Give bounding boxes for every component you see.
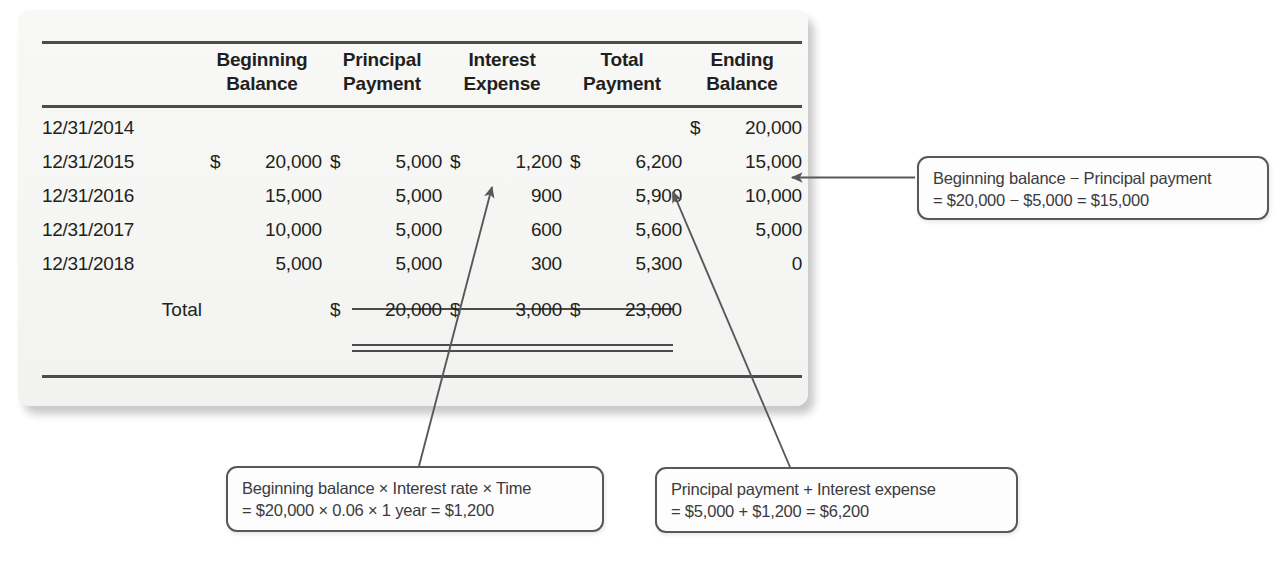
cell-total-payment: $6,200	[562, 145, 682, 179]
value: 10,000	[265, 219, 322, 240]
value: 23,000	[625, 299, 682, 320]
cell-total-payment	[562, 111, 682, 145]
cell-beginning-balance: 10,000	[202, 213, 322, 247]
header-line-1: Ending	[710, 49, 773, 70]
column-header-total-payment: Total Payment	[562, 48, 682, 102]
cell-principal-payment	[322, 111, 442, 145]
callout-total-payment: Principal payment + Interest expense = $…	[655, 467, 1018, 533]
cell-principal-payment: 5,000	[322, 247, 442, 281]
header-line-1: Beginning	[216, 49, 307, 70]
cell-beginning-balance: 5,000	[202, 247, 322, 281]
cell-ending-balance: 0	[682, 247, 802, 281]
cell-principal-payment: 5,000	[322, 179, 442, 213]
value: 300	[531, 253, 562, 274]
value: 900	[531, 185, 562, 206]
cell-date: 12/31/2016	[42, 179, 202, 213]
value: 1,200	[515, 151, 562, 172]
cell-principal-payment: 5,000	[322, 213, 442, 247]
cell-beginning-balance: 15,000	[202, 179, 322, 213]
currency-symbol: $	[562, 293, 580, 327]
cell-ending-balance: 10,000	[682, 179, 802, 213]
currency-symbol: $	[682, 111, 700, 145]
callout-line-2: = $20,000 × 0.06 × 1 year = $1,200	[242, 499, 588, 521]
value: 20,000	[385, 299, 442, 320]
cell-interest-expense: 300	[442, 247, 562, 281]
value: 5,900	[635, 185, 682, 206]
value: 6,200	[635, 151, 682, 172]
cell-beginning-balance: $20,000	[202, 145, 322, 179]
total-cell-total-payment: $23,000	[562, 281, 682, 327]
value: 5,000	[395, 185, 442, 206]
callout-line-1: Principal payment + Interest expense	[671, 478, 1002, 500]
amortization-table: Beginning Balance Principal Payment Inte…	[42, 48, 802, 327]
spacer-cell	[442, 102, 562, 111]
cell-total-payment: 5,300	[562, 247, 682, 281]
header-line-2: Payment	[343, 73, 421, 94]
spacer-cell	[682, 102, 802, 111]
value: 20,000	[745, 117, 802, 138]
cell-date: 12/31/2014	[42, 111, 202, 145]
cell-beginning-balance	[202, 111, 322, 145]
value: 0	[792, 253, 802, 274]
currency-symbol: $	[562, 145, 580, 179]
value: 3,000	[515, 299, 562, 320]
header-line-2: Balance	[226, 73, 297, 94]
value: 5,000	[755, 219, 802, 240]
cell-ending-balance: 5,000	[682, 213, 802, 247]
table-header: Beginning Balance Principal Payment Inte…	[42, 48, 802, 102]
table-body: 12/31/2014 $20,000 12/31/2015 $20,000 $5…	[42, 102, 802, 327]
total-cell-principal-payment: $20,000	[322, 281, 442, 327]
header-line-2: Expense	[464, 73, 541, 94]
total-cell-ending-balance	[682, 281, 802, 327]
cell-date: 12/31/2017	[42, 213, 202, 247]
spacer-cell	[322, 102, 442, 111]
header-line-1: Total	[601, 49, 644, 70]
cell-interest-expense: 900	[442, 179, 562, 213]
header-line-2: Balance	[706, 73, 777, 94]
card-surface: Beginning Balance Principal Payment Inte…	[18, 10, 808, 406]
table-row: 12/31/2018 5,000 5,000 300 5,300 0	[42, 247, 802, 281]
callout-line-1: Beginning balance − Principal payment	[933, 167, 1253, 189]
callout-interest-expense: Beginning balance × Interest rate × Time…	[226, 466, 604, 532]
header-line-1: Interest	[468, 49, 535, 70]
cell-total-payment: 5,600	[562, 213, 682, 247]
table-row: 12/31/2015 $20,000 $5,000 $1,200 $6,200 …	[42, 145, 802, 179]
value: 600	[531, 219, 562, 240]
header-line-1: Principal	[343, 49, 421, 70]
value: 5,000	[395, 151, 442, 172]
table-bottom-rule	[42, 375, 802, 378]
callout-ending-balance: Beginning balance − Principal payment = …	[917, 156, 1269, 220]
value: 15,000	[745, 151, 802, 172]
table-row: 12/31/2016 15,000 5,000 900 5,900 10,000	[42, 179, 802, 213]
column-header-date	[42, 48, 202, 102]
value: 10,000	[745, 185, 802, 206]
table-total-row: Total $20,000 $3,000 $23,000	[42, 281, 802, 327]
cell-interest-expense: 600	[442, 213, 562, 247]
total-label: Total	[42, 281, 202, 327]
cell-ending-balance: $20,000	[682, 111, 802, 145]
value: 5,600	[635, 219, 682, 240]
currency-symbol: $	[322, 145, 340, 179]
callout-line-1: Beginning balance × Interest rate × Time	[242, 477, 588, 499]
cell-date: 12/31/2015	[42, 145, 202, 179]
table-row: 12/31/2017 10,000 5,000 600 5,600 5,000	[42, 213, 802, 247]
column-header-interest-expense: Interest Expense	[442, 48, 562, 102]
cell-ending-balance: 15,000	[682, 145, 802, 179]
value: 20,000	[265, 151, 322, 172]
cell-principal-payment: $5,000	[322, 145, 442, 179]
total-row-bottom-rule-lower	[352, 350, 673, 352]
spacer-cell	[562, 102, 682, 111]
currency-symbol: $	[442, 145, 460, 179]
header-row: Beginning Balance Principal Payment Inte…	[42, 48, 802, 102]
callout-line-2: = $5,000 + $1,200 = $6,200	[671, 500, 1002, 522]
value: 5,300	[635, 253, 682, 274]
spacer-cell	[202, 102, 322, 111]
currency-symbol: $	[442, 293, 460, 327]
header-gap-row	[42, 102, 802, 111]
value: 5,000	[395, 253, 442, 274]
value: 5,000	[275, 253, 322, 274]
total-cell-interest-expense: $3,000	[442, 281, 562, 327]
column-header-principal-payment: Principal Payment	[322, 48, 442, 102]
header-line-2: Payment	[583, 73, 661, 94]
cell-total-payment: 5,900	[562, 179, 682, 213]
